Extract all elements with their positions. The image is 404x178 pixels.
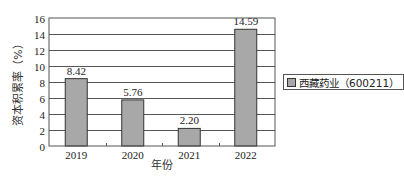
x-tick-label: 2022: [235, 149, 257, 161]
bar-2020: [122, 100, 144, 146]
y-tick-label: 12: [34, 45, 45, 57]
y-axis-ticks: 0246810121416: [34, 13, 46, 153]
legend-swatch-icon: [287, 78, 296, 87]
value-label: 8.42: [67, 65, 86, 77]
y-tick-label: 8: [40, 77, 46, 89]
y-tick-label: 10: [34, 61, 46, 73]
y-tick-label: 2: [40, 125, 46, 137]
y-axis-title: 资本积累率（%）: [11, 38, 25, 125]
legend: 西藏药业（600211）: [283, 74, 404, 90]
y-tick-label: 16: [34, 13, 46, 25]
legend-label: 西藏药业（600211）: [299, 75, 399, 90]
value-label: 2.20: [180, 114, 200, 126]
bar-2022: [235, 29, 257, 146]
y-tick-label: 14: [34, 29, 46, 41]
y-tick-label: 0: [40, 141, 46, 153]
y-tick-label: 4: [40, 109, 46, 121]
x-tick-label: 2019: [65, 149, 88, 161]
bar-2021: [178, 128, 200, 146]
x-axis-title: 年份: [151, 158, 173, 172]
value-label: 5.76: [123, 86, 143, 98]
value-label: 14.59: [233, 15, 258, 27]
y-tick-label: 6: [40, 93, 46, 105]
bar-2019: [65, 79, 87, 146]
x-tick-label: 2020: [122, 149, 145, 161]
x-tick-label: 2021: [178, 149, 200, 161]
